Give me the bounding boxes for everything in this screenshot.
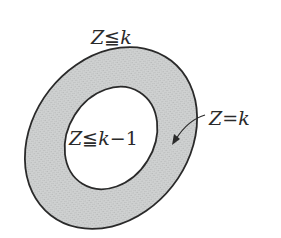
outer-region-label: Z≦k: [90, 26, 132, 48]
nested-sets-diagram: Z≦k Z≦k−1 Z=k: [0, 0, 281, 238]
ring-region-label: Z=k: [208, 107, 250, 129]
inner-region-label: Z≦k−1: [68, 127, 138, 149]
